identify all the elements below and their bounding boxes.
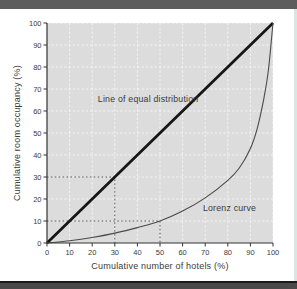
x-tick-label: 0 (45, 248, 49, 257)
y-tick-label: 70 (33, 85, 41, 94)
curve-label: Line of equal distribution (98, 94, 199, 104)
y-tick-label: 50 (33, 129, 41, 138)
bottom-border-bar (0, 281, 297, 289)
y-axis-title: Cumulative room occupancy (%) (12, 65, 22, 201)
x-tick-label: 70 (201, 248, 209, 257)
plot-svg: 0102030405060708090100010203040506070809… (0, 0, 297, 289)
x-tick-label: 50 (156, 248, 164, 257)
y-tick-label: 100 (29, 19, 42, 28)
x-tick-label: 20 (88, 248, 96, 257)
top-border-bar (0, 0, 297, 9)
x-tick-label: 90 (246, 248, 254, 257)
y-tick-label: 40 (33, 151, 41, 160)
x-tick-label: 40 (133, 248, 141, 257)
y-tick-label: 90 (33, 41, 41, 50)
x-tick-label: 60 (178, 248, 186, 257)
x-tick-label: 10 (65, 248, 73, 257)
y-tick-label: 20 (33, 195, 41, 204)
figure: 0102030405060708090100010203040506070809… (0, 0, 297, 289)
y-tick-label: 80 (33, 63, 41, 72)
x-axis-title: Cumulative number of hotels (%) (47, 261, 273, 271)
y-tick-label: 60 (33, 107, 41, 116)
curve-label: Lorenz curve (203, 203, 256, 213)
page-edge-strip (294, 9, 297, 281)
x-tick-label: 30 (111, 248, 119, 257)
y-tick-label: 0 (37, 239, 41, 248)
x-tick-label: 80 (224, 248, 232, 257)
x-tick-label: 100 (267, 248, 280, 257)
y-tick-label: 10 (33, 217, 41, 226)
y-tick-label: 30 (33, 173, 41, 182)
